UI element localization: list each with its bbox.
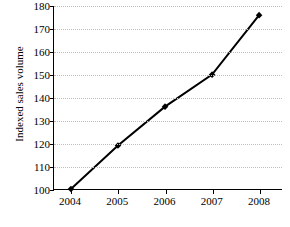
gridline <box>54 52 282 53</box>
y-tick-mark <box>50 29 54 30</box>
x-axis-tick-labels: 20042005200620072008 <box>53 195 282 209</box>
x-tick-mark <box>260 189 261 194</box>
y-tick-label: 140 <box>34 93 51 104</box>
gridline <box>54 121 282 122</box>
plot-area <box>53 6 282 190</box>
x-tick-mark <box>166 189 167 194</box>
y-axis-tick-labels: 100110120130140150160170180 <box>20 0 50 200</box>
gridline <box>54 29 282 30</box>
chart-figure: Indexed sales volume 1001101201301401501… <box>0 0 290 227</box>
gridline <box>54 75 282 76</box>
gridline <box>54 98 282 99</box>
x-tick-mark <box>71 189 72 194</box>
y-tick-mark <box>50 6 54 7</box>
y-tick-label: 110 <box>34 162 50 173</box>
y-tick-label: 100 <box>34 185 51 196</box>
y-tick-mark <box>50 167 54 168</box>
x-tick-mark <box>213 189 214 194</box>
series-line <box>71 15 259 189</box>
y-tick-label: 160 <box>34 47 51 58</box>
y-tick-label: 180 <box>34 1 51 12</box>
x-tick-label: 2005 <box>106 195 128 207</box>
x-tick-label: 2006 <box>154 195 176 207</box>
y-tick-mark <box>50 75 54 76</box>
gridline <box>54 167 282 168</box>
x-tick-label: 2004 <box>59 195 81 207</box>
x-tick-label: 2007 <box>201 195 223 207</box>
y-tick-mark <box>50 121 54 122</box>
y-tick-label: 170 <box>34 24 51 35</box>
x-tick-label: 2008 <box>248 195 270 207</box>
y-tick-label: 130 <box>34 116 51 127</box>
gridline <box>54 6 282 7</box>
y-tick-label: 150 <box>34 70 51 81</box>
figure-caption <box>0 216 290 227</box>
y-tick-mark <box>50 52 54 53</box>
y-tick-label: 120 <box>34 139 51 150</box>
y-tick-mark <box>50 144 54 145</box>
y-tick-mark <box>50 190 54 191</box>
y-tick-mark <box>50 98 54 99</box>
x-tick-mark <box>118 189 119 194</box>
gridline <box>54 144 282 145</box>
